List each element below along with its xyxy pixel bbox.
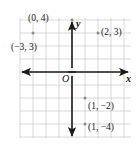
plotted-point <box>32 32 35 35</box>
point-label: (0, 4) <box>28 14 49 24</box>
y-axis-label: y <box>76 19 80 29</box>
point-label: (1, −2) <box>88 102 114 112</box>
plotted-point <box>71 19 74 22</box>
plotted-point <box>84 123 87 126</box>
origin-label: O <box>62 74 69 84</box>
point-label: (−3, 3) <box>11 43 37 53</box>
point-label: (1, −4) <box>88 123 114 133</box>
x-axis-label: x <box>126 74 131 84</box>
coordinate-plane-figure: y x O (0, 4)(−3, 3)(2, 3)(1, −2)(1, −4) <box>0 0 140 145</box>
axes <box>0 0 140 145</box>
plotted-point <box>84 97 87 100</box>
plotted-point <box>97 32 100 35</box>
point-label: (2, 3) <box>101 28 122 38</box>
